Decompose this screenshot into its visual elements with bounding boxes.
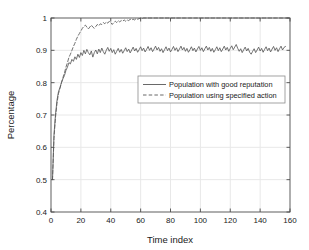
y-tick-label: 0.8 [36,79,48,88]
x-tick-label: 160 [283,216,297,225]
y-tick-label: 0.9 [36,46,48,55]
y-tick-label: 0.6 [36,143,48,152]
legend-label-2: Population using specified action [169,91,277,100]
line-chart: 0204060801001201401600.40.50.60.70.80.91… [0,0,309,250]
x-tick-label: 120 [224,216,238,225]
legend[interactable]: Population with good reputationPopulatio… [138,76,285,103]
legend-label-1: Population with good reputation [169,80,273,89]
x-axis-label: Time index [147,234,193,245]
x-tick-label: 80 [166,216,175,225]
y-tick-label: 0.7 [36,111,48,120]
x-tick-label: 140 [253,216,267,225]
x-tick-label: 0 [49,216,54,225]
x-tick-label: 60 [136,216,145,225]
chart-figure: 0204060801001201401600.40.50.60.70.80.91… [0,0,309,250]
y-tick-label: 1 [43,14,48,23]
x-tick-label: 40 [106,216,115,225]
y-axis-label: Percentage [5,91,16,140]
x-tick-label: 20 [76,216,85,225]
y-tick-label: 0.4 [36,208,48,217]
x-tick-label: 100 [194,216,208,225]
y-tick-label: 0.5 [36,176,48,185]
